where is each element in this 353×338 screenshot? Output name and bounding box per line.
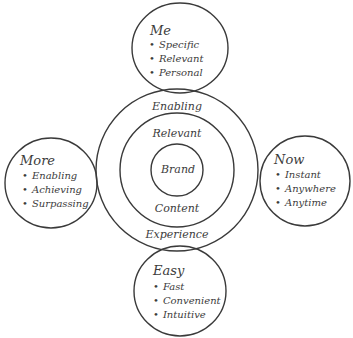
list-item: Specific (149, 38, 204, 52)
list-item: Instant (275, 168, 336, 182)
list-item: Surpassing (22, 197, 89, 211)
list-item: Anywhere (275, 182, 336, 196)
list-item: Intuitive (153, 308, 221, 322)
brand-label: Brand (161, 163, 195, 176)
satellite-bottom-list: Fast Convenient Intuitive (153, 280, 221, 322)
satellite-left-title: More (20, 153, 55, 168)
list-item: Convenient (153, 294, 221, 308)
list-item: Achieving (22, 183, 89, 197)
satellite-right-list: Instant Anywhere Anytime (275, 168, 336, 210)
satellite-bottom-title: Easy (153, 263, 184, 278)
satellite-left-list: Enabling Achieving Surpassing (22, 169, 89, 211)
middle-top-label: Relevant (152, 127, 201, 140)
outer-bottom-label: Experience (146, 228, 209, 241)
list-item: Anytime (275, 196, 336, 210)
satellite-top-list: Specific Relevant Personal (149, 38, 204, 80)
list-item: Enabling (22, 169, 89, 183)
satellite-top-title: Me (150, 23, 171, 38)
list-item: Personal (149, 66, 204, 80)
middle-bottom-label: Content (155, 202, 200, 215)
list-item: Relevant (149, 52, 204, 66)
outer-top-label: Enabling (152, 100, 202, 113)
list-item: Fast (153, 280, 221, 294)
satellite-right-title: Now (274, 152, 304, 167)
